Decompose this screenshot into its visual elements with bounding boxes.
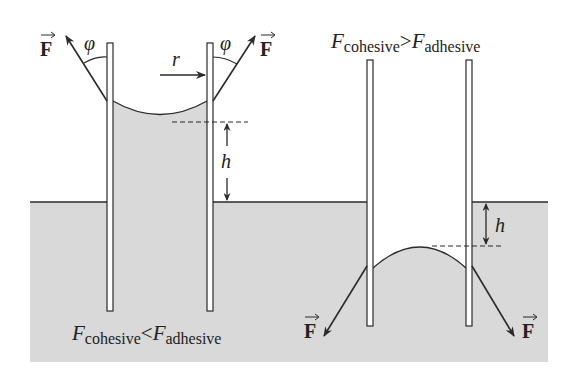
left-height-label: h (221, 150, 231, 172)
right-tube-wall-right (466, 60, 472, 326)
angle-label-right: φ (220, 32, 231, 55)
svg-text:F: F (522, 320, 534, 342)
left-angle-arc-left (84, 57, 107, 63)
right-height-label: h (495, 214, 505, 236)
force-label-top-right: F (260, 32, 275, 60)
right-caption: Fcohesive>Fadhesive (330, 29, 480, 55)
svg-text:F: F (304, 320, 316, 342)
radius-label: r (172, 48, 180, 70)
left-liquid-column (113, 101, 207, 310)
svg-text:F: F (260, 38, 272, 60)
angle-label-left: φ (84, 32, 95, 55)
right-liquid-column-top (373, 247, 466, 330)
svg-text:F: F (40, 38, 52, 60)
force-label-top-left: F (40, 32, 55, 60)
left-tube-wall-left (107, 43, 113, 311)
right-tube-wall-left (367, 60, 373, 326)
capillary-action-diagram: h r φ φ F F Fcohesive<Fadhesive h F (0, 0, 580, 375)
left-angle-arc-right (213, 57, 237, 64)
left-tube-wall-right (207, 43, 213, 311)
